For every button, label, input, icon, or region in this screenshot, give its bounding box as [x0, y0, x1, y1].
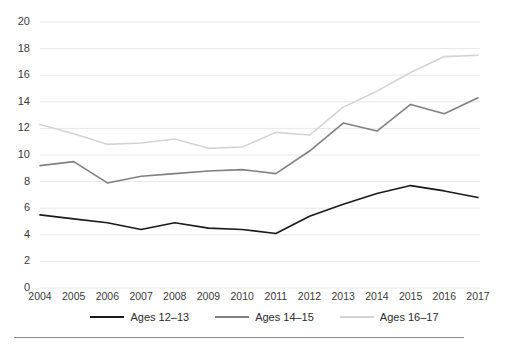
y-axis-tick-label: 20: [8, 16, 30, 27]
y-axis-tick-label: 14: [8, 96, 30, 107]
series-lines-group: [40, 55, 478, 233]
y-axis-tick-label: 4: [8, 229, 30, 240]
y-axis-tick-label: 8: [8, 176, 30, 187]
chart-legend: Ages 12–13Ages 14–15Ages 16–17: [0, 308, 529, 326]
x-axis-tick-label: 2014: [360, 291, 394, 302]
gridlines-group: [40, 22, 480, 288]
y-axis-tick-label: 2: [8, 255, 30, 266]
legend-line-swatch: [340, 316, 374, 318]
y-axis-tick-label: 18: [8, 43, 30, 54]
x-axis-tick-label: 2008: [158, 291, 192, 302]
x-axis-tick-label: 2015: [394, 291, 428, 302]
y-axis-tick-label: 12: [8, 122, 30, 133]
x-axis-tick-label: 2010: [225, 291, 259, 302]
x-axis-tick-label: 2005: [57, 291, 91, 302]
footer-divider: [14, 337, 464, 338]
x-axis-tick-label: 2009: [191, 291, 225, 302]
y-axis-tick-label: 10: [8, 149, 30, 160]
legend-item-label: Ages 12–13: [130, 311, 189, 323]
legend-line-swatch: [215, 316, 249, 318]
legend-line-swatch: [90, 316, 124, 318]
x-axis-tick-label: 2004: [23, 291, 57, 302]
legend-item[interactable]: Ages 12–13: [90, 311, 189, 323]
x-axis-tick-label: 2007: [124, 291, 158, 302]
x-axis-tick-label: 2012: [293, 291, 327, 302]
x-axis-tick-label: 2017: [461, 291, 495, 302]
legend-item[interactable]: Ages 14–15: [215, 311, 314, 323]
legend-item[interactable]: Ages 16–17: [340, 311, 439, 323]
x-axis-tick-label: 2011: [259, 291, 293, 302]
series-line: [40, 186, 478, 234]
legend-item-label: Ages 16–17: [380, 311, 439, 323]
x-axis-tick-label: 2016: [427, 291, 461, 302]
x-axis-tick-label: 2013: [326, 291, 360, 302]
line-chart-figure: 20181614121086420 2004200520062007200820…: [0, 0, 529, 347]
y-axis-tick-label: 6: [8, 202, 30, 213]
legend-item-label: Ages 14–15: [255, 311, 314, 323]
x-axis-tick-label: 2006: [90, 291, 124, 302]
y-axis-tick-label: 16: [8, 69, 30, 80]
